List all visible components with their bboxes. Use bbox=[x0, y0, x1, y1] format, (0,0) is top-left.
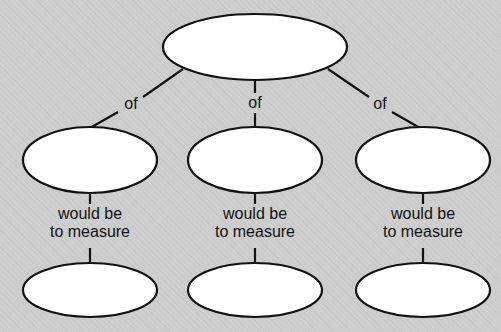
leaf-node-right[interactable] bbox=[356, 263, 490, 317]
edge-label-measure-left: would be to measure bbox=[48, 205, 132, 241]
edge-label-of-right: of bbox=[371, 95, 388, 113]
edge-label-line2: to measure bbox=[215, 223, 295, 241]
edge-label-measure-right: would be to measure bbox=[381, 205, 465, 241]
connector-root-left-upper bbox=[143, 69, 183, 97]
edge-label-measure-center: would be to measure bbox=[213, 205, 297, 241]
middle-node-right[interactable] bbox=[356, 127, 490, 193]
middle-node-center[interactable] bbox=[188, 127, 322, 193]
edge-label-line2: to measure bbox=[50, 223, 130, 241]
connector-root-right-lower bbox=[392, 112, 420, 128]
leaf-node-center[interactable] bbox=[188, 263, 322, 317]
edge-label-of-center: of bbox=[246, 94, 263, 112]
edge-label-line2: to measure bbox=[383, 223, 463, 241]
nodes bbox=[23, 14, 490, 317]
edge-label-line1: would be bbox=[50, 205, 130, 223]
root-node[interactable] bbox=[163, 14, 347, 80]
edge-label-line1: would be bbox=[215, 205, 295, 223]
leaf-node-left[interactable] bbox=[23, 263, 157, 317]
concept-map bbox=[0, 0, 501, 332]
connector-root-right-upper bbox=[328, 69, 369, 97]
edge-label-line1: would be bbox=[383, 205, 463, 223]
middle-node-left[interactable] bbox=[23, 127, 157, 193]
edge-label-of-left: of bbox=[122, 95, 139, 113]
connector-root-left-lower bbox=[90, 112, 118, 128]
